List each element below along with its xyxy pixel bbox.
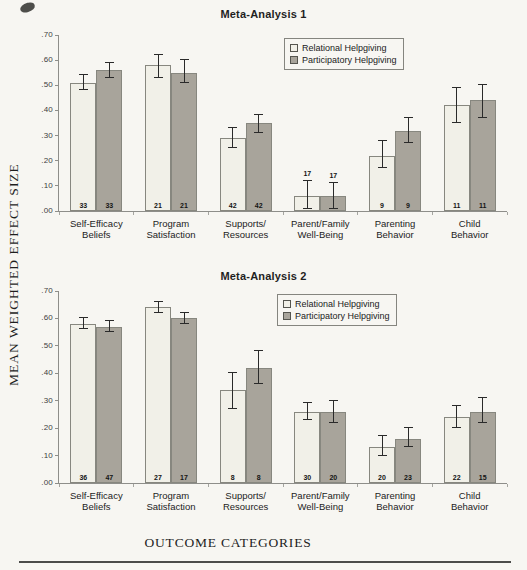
bar-participatory [470, 100, 496, 211]
error-bar-cap [329, 208, 338, 209]
sample-size-label: 17 [171, 474, 197, 481]
y-axis-tick-label: .10 [27, 181, 53, 190]
y-axis-tick-label: .40 [27, 368, 53, 377]
error-bar [408, 118, 409, 143]
bar-participatory [395, 131, 421, 211]
error-bar [482, 398, 483, 423]
error-bar-cap [478, 84, 487, 85]
sample-size-label: 15 [470, 474, 496, 481]
category-label-line: Supports/ [204, 218, 288, 229]
scan-smudge-mark [19, 1, 36, 13]
sample-size-label: 8 [220, 474, 246, 481]
error-bar [83, 318, 84, 329]
legend-label: Relational Helpgiving [302, 42, 387, 54]
y-axis-tick-label: .30 [27, 396, 53, 405]
error-bar-cap [79, 74, 88, 75]
chart-meta-analysis-2: Meta-Analysis 2 Relational Helpgiving Pa… [0, 0, 527, 570]
category-label-line: Well-Being [278, 229, 362, 240]
y-axis-tick [55, 35, 59, 36]
error-bar-cap [254, 132, 263, 133]
category-label: ProgramSatisfaction [129, 490, 213, 512]
plot-area: .70.60.50.40.30.20.10.00Self-EfficacyBel… [58, 291, 507, 484]
bar-participatory [320, 196, 346, 211]
meta-analysis-figure: MEAN WEIGHTED EFFECT SIZE Meta-Analysis … [0, 0, 527, 570]
bar-relational [220, 138, 246, 211]
category-label-line: Behavior [428, 501, 512, 512]
error-bar-cap [378, 140, 387, 141]
error-bar [333, 401, 334, 423]
error-bar [109, 63, 110, 78]
category-label: Self-EfficacyBeliefs [54, 218, 138, 240]
x-axis-tick [59, 484, 60, 487]
legend-label: Participatory Helpgiving [302, 54, 397, 66]
error-bar [258, 351, 259, 384]
error-bar-cap [180, 82, 189, 83]
legend-item-relational: Relational Helpgiving [290, 42, 397, 54]
x-axis-tick [507, 484, 508, 487]
error-bar [184, 60, 185, 83]
bar-relational [369, 156, 395, 211]
sample-size-label: 47 [96, 474, 122, 481]
y-axis-tick [55, 345, 59, 346]
legend-item-participatory: Participatory Helpgiving [283, 310, 390, 322]
x-axis-tick [357, 212, 358, 215]
error-bar-cap [329, 400, 338, 401]
chart-title: Meta-Analysis 1 [0, 8, 527, 20]
y-axis-tick [55, 185, 59, 186]
category-label-line: Child [428, 490, 512, 501]
y-axis-tick-label: .20 [27, 423, 53, 432]
category-label-line: Parent/Family [278, 218, 362, 229]
x-axis-title: OUTCOME CATEGORIES [0, 535, 456, 551]
bar-participatory [246, 123, 272, 211]
bar-participatory [320, 412, 346, 483]
y-axis-tick-label: .70 [27, 286, 53, 295]
category-label-line: Satisfaction [129, 501, 213, 512]
category-label-line: Behavior [353, 501, 437, 512]
category-label-line: Beliefs [54, 501, 138, 512]
error-bar-cap [478, 397, 487, 398]
error-bar-cap [303, 180, 312, 181]
sample-size-label: 22 [444, 474, 470, 481]
error-bar-cap [180, 59, 189, 60]
y-axis-tick [55, 110, 59, 111]
bar-relational [294, 412, 320, 483]
y-axis-tick [55, 60, 59, 61]
error-bar-cap [228, 127, 237, 128]
bar-relational [444, 105, 470, 211]
y-axis-tick [55, 85, 59, 86]
x-axis-tick [208, 212, 209, 215]
error-bar-cap [180, 312, 189, 313]
category-label-line: Parent/Family [278, 490, 362, 501]
x-axis-tick [59, 212, 60, 215]
error-bar-cap [303, 208, 312, 209]
error-bar-cap [154, 54, 163, 55]
y-axis-tick-label: .50 [27, 341, 53, 350]
category-label-line: Beliefs [54, 229, 138, 240]
legend: Relational Helpgiving Participatory Help… [284, 38, 404, 70]
bar-participatory [96, 70, 122, 211]
relational-swatch-icon [283, 300, 291, 308]
bar-relational [145, 307, 171, 483]
bar-participatory [246, 368, 272, 483]
sample-size-label: 21 [145, 202, 171, 209]
error-bar-cap [105, 77, 114, 78]
error-bar [158, 55, 159, 78]
error-bar-cap [228, 372, 237, 373]
error-bar [83, 75, 84, 90]
error-bar [482, 85, 483, 118]
category-label-line: Resources [204, 229, 288, 240]
bar-participatory [395, 439, 421, 483]
error-bar-cap [378, 435, 387, 436]
error-bar [307, 181, 308, 209]
error-bar-cap [303, 402, 312, 403]
error-bar-cap [154, 301, 163, 302]
error-bar [408, 428, 409, 447]
error-bar [307, 403, 308, 419]
error-bar-cap [452, 87, 461, 88]
error-bar-cap [254, 383, 263, 384]
category-label: ParentingBehavior [353, 490, 437, 512]
x-axis-tick [133, 484, 134, 487]
chart-title: Meta-Analysis 2 [0, 270, 527, 282]
sample-size-label: 33 [70, 202, 96, 209]
sample-size-label: 17 [292, 170, 322, 177]
